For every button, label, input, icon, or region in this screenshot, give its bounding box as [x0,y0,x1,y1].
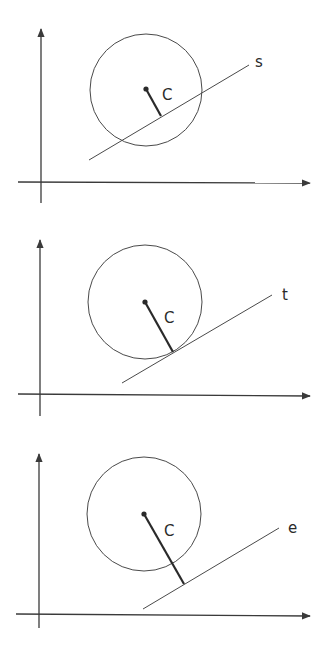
tangent-line [122,295,272,383]
line-label: e [288,519,297,537]
geometry-figure: C s C t C e [0,0,328,654]
center-label: C [164,309,174,327]
secant-line [89,65,249,160]
panel-secant: C s [18,29,310,203]
panel-external: C e [16,454,310,628]
center-point [143,86,148,91]
panel-tangent: C t [18,240,310,416]
diagram-stage: C s C t C e [0,0,328,654]
line-label: t [282,286,288,304]
center-label: C [162,86,172,104]
center-point [141,511,146,516]
x-axis [18,182,310,183]
x-axis [18,394,310,396]
center-label: C [164,522,174,540]
center-point [142,299,147,304]
x-axis [16,614,310,616]
line-label: s [255,53,263,71]
external-line [143,528,279,609]
radius-distance-segment [146,89,161,116]
